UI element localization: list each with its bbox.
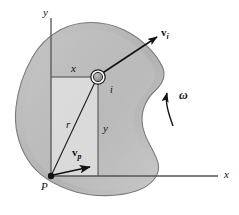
velocity-i-label: vi xyxy=(161,27,169,41)
particle-inner-disc xyxy=(93,72,102,81)
figure-canvas xyxy=(0,0,239,215)
omega-label: ω xyxy=(179,89,188,101)
velocity-p-subscript: p xyxy=(78,152,82,161)
y-axis-label: y xyxy=(43,7,48,18)
velocity-i-subscript: i xyxy=(167,32,169,41)
particle-marker xyxy=(91,70,105,84)
x-component-label: x xyxy=(71,63,76,74)
y-component-label: y xyxy=(103,123,108,134)
particle-label-i: i xyxy=(110,85,113,95)
point-p-label: P xyxy=(41,181,48,192)
radius-label-r: r xyxy=(66,119,70,130)
omega-curved-arrow xyxy=(166,93,173,126)
point-p-marker xyxy=(48,173,54,179)
kinematics-figure: y x x y r i P vi vp ω xyxy=(0,0,239,215)
x-axis-label: x xyxy=(224,169,229,180)
velocity-p-label: vp xyxy=(72,147,81,161)
